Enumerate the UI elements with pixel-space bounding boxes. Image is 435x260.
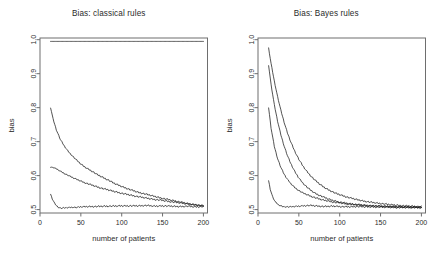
x-tick-label: 150 <box>157 219 169 226</box>
y-axis-title: bias <box>7 118 16 132</box>
y-tick-label: 0.5 <box>248 205 255 215</box>
y-tick-label: 0.6 <box>248 171 255 181</box>
curve-bayes-curve-2 <box>268 66 421 208</box>
x-axis-title: number of patients <box>92 234 155 243</box>
y-tick-label: 0.8 <box>248 103 255 113</box>
x-tick-label: 100 <box>116 219 128 226</box>
x-tick-label: 0 <box>256 219 260 226</box>
y-tick-label: 0.7 <box>248 137 255 147</box>
curve-upper-decay <box>51 108 204 206</box>
curve-bayes-curve-1 <box>268 48 421 207</box>
x-tick-label: 100 <box>333 219 345 226</box>
x-tick-label: 50 <box>77 219 85 226</box>
x-tick-label: 200 <box>198 219 210 226</box>
y-tick-label: 0.7 <box>31 137 38 147</box>
x-tick-label: 50 <box>294 219 302 226</box>
y-axis-title: bias <box>225 118 234 132</box>
plot-area-classical: 0.50.60.70.80.91.0050100150200number of … <box>0 0 218 260</box>
bias-figure: Bias: classical rules 0.50.60.70.80.91.0… <box>0 0 435 260</box>
y-tick-label: 0.5 <box>31 205 38 215</box>
x-tick-label: 150 <box>374 219 386 226</box>
y-tick-label: 0.8 <box>31 103 38 113</box>
y-tick-label: 0.9 <box>248 69 255 79</box>
x-axis-title: number of patients <box>310 234 373 243</box>
x-tick-label: 200 <box>415 219 427 226</box>
curve-middle-decay <box>51 167 204 206</box>
panel-classical-rules: Bias: classical rules 0.50.60.70.80.91.0… <box>0 0 218 260</box>
y-tick-label: 0.6 <box>31 171 38 181</box>
plot-area-bayes: 0.50.60.70.80.91.0050100150200number of … <box>218 0 435 260</box>
y-tick-label: 0.9 <box>31 69 38 79</box>
panel-bayes-rules: Bias: Bayes rules 0.50.60.70.80.91.00501… <box>218 0 435 260</box>
y-tick-label: 1.0 <box>248 35 255 45</box>
curve-lower-flat <box>51 194 204 208</box>
x-tick-label: 0 <box>38 219 42 226</box>
y-tick-label: 1.0 <box>31 35 38 45</box>
curve-bayes-curve-3 <box>268 108 421 208</box>
